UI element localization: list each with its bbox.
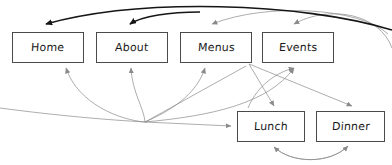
edge-hub-to-about — [131, 68, 145, 122]
node-menus-label: Menus — [197, 41, 235, 54]
node-lunch-label: Lunch — [254, 120, 289, 133]
edge-hub-to-home — [66, 68, 145, 122]
edge-arc-to-home — [46, 7, 392, 30]
node-events[interactable]: Events — [262, 32, 334, 63]
node-events-label: Events — [278, 41, 317, 54]
edge-arc-to-about — [130, 12, 200, 24]
edge-menus-to-dinner — [249, 64, 352, 106]
node-home[interactable]: Home — [12, 32, 84, 63]
site-map-diagram: Home About Menus Events Lunch Dinner — [0, 0, 392, 165]
edge-hub-to-menus — [145, 68, 205, 122]
edge-menus-to-lunch — [249, 64, 274, 106]
edge-lunch-to-dinner — [274, 146, 348, 160]
node-about-label: About — [115, 41, 149, 54]
node-dinner[interactable]: Dinner — [316, 111, 385, 142]
node-about[interactable]: About — [96, 32, 168, 63]
edge-hub-to-menus-straight — [145, 66, 246, 122]
node-lunch[interactable]: Lunch — [237, 111, 305, 142]
edge-dinner-to-lunch — [274, 146, 348, 160]
edge-hub-inflow-left — [0, 108, 145, 122]
node-home-label: Home — [31, 41, 65, 54]
node-menus[interactable]: Menus — [180, 32, 252, 63]
node-dinner-label: Dinner — [331, 120, 370, 133]
edge-hub-to-lunch — [145, 122, 231, 126]
